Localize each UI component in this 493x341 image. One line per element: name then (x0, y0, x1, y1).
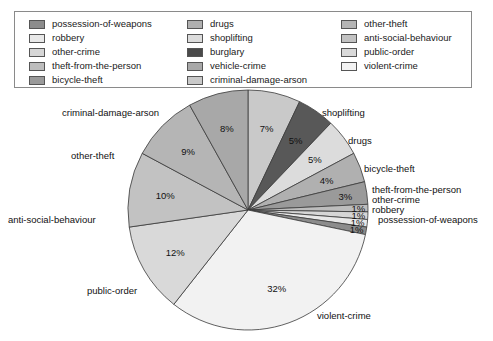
pie-plot-area: 7%5%5%4%3%1%1%1%1%32%12%10%9%8% criminal… (0, 88, 493, 341)
legend-item: robbery (29, 31, 189, 45)
legend-item: anti-social-behaviour (341, 31, 471, 45)
slice-percent-label: 1% (350, 224, 364, 235)
legend-swatch-icon (29, 76, 45, 85)
legend-item-label: public-order (364, 47, 414, 57)
legend-item-label: bicycle-theft (52, 75, 103, 85)
legend-swatch-icon (29, 34, 45, 43)
legend-column-3: other-theft anti-social-behaviour public… (341, 17, 471, 73)
legend-item-label: other-theft (364, 19, 407, 29)
legend-column-2: drugs shoplifting burglary vehicle-crime… (187, 17, 339, 87)
legend-item: criminal-damage-arson (187, 73, 339, 87)
legend-item: other-theft (341, 17, 471, 31)
legend-item: possession-of-weapons (29, 17, 189, 31)
legend-swatch-icon (187, 62, 203, 71)
legend-item: drugs (187, 17, 339, 31)
legend-item-label: drugs (210, 19, 234, 29)
legend-swatch-icon (341, 48, 357, 57)
pie-category-callout: shoplifting (322, 107, 365, 118)
legend-item: bicycle-theft (29, 73, 189, 87)
pie-category-callout: bicycle-theft (364, 163, 415, 174)
legend-item: other-crime (29, 45, 189, 59)
legend-item-label: vehicle-crime (210, 61, 266, 71)
pie-chart-figure: possession-of-weapons robbery other-crim… (0, 0, 493, 341)
legend-item: vehicle-crime (187, 59, 339, 73)
pie-category-callout: violent-crime (317, 310, 371, 321)
legend-item-label: robbery (52, 33, 84, 43)
pie-category-callout: drugs (348, 135, 372, 146)
legend-swatch-icon (187, 34, 203, 43)
chart-legend: possession-of-weapons robbery other-crim… (14, 11, 472, 88)
pie-category-callout: criminal-damage-arson (62, 107, 159, 118)
legend-item: violent-crime (341, 59, 471, 73)
legend-swatch-icon (187, 48, 203, 57)
legend-item-label: anti-social-behaviour (364, 33, 452, 43)
slice-percent-label: 9% (181, 146, 195, 157)
slice-percent-label: 4% (320, 175, 334, 186)
legend-item: theft-from-the-person (29, 59, 189, 73)
legend-swatch-icon (29, 62, 45, 71)
pie-category-callout: other-theft (71, 150, 114, 161)
slice-percent-label: 3% (339, 191, 353, 202)
legend-item-label: possession-of-weapons (52, 19, 152, 29)
legend-swatch-icon (341, 20, 357, 29)
legend-item: public-order (341, 45, 471, 59)
legend-swatch-icon (187, 20, 203, 29)
slice-percent-label: 10% (156, 190, 176, 201)
slice-percent-label: 8% (220, 123, 234, 134)
legend-item-label: shoplifting (210, 33, 253, 43)
slice-percent-label: 7% (260, 123, 274, 134)
pie-category-callout: possession-of-weapons (378, 214, 478, 225)
slice-percent-label: 5% (289, 135, 303, 146)
legend-column-1: possession-of-weapons robbery other-crim… (29, 17, 189, 87)
legend-item: shoplifting (187, 31, 339, 45)
pie-category-callout: public-order (87, 285, 137, 296)
pie-category-callout: anti-social-behaviour (8, 214, 96, 225)
slice-percent-label: 12% (166, 247, 186, 258)
legend-swatch-icon (29, 20, 45, 29)
legend-item-label: burglary (210, 47, 244, 57)
legend-swatch-icon (341, 34, 357, 43)
pie-slices (128, 90, 368, 330)
legend-item-label: criminal-damage-arson (210, 75, 307, 85)
legend-swatch-icon (341, 62, 357, 71)
legend-item-label: theft-from-the-person (52, 61, 141, 71)
legend-item-label: violent-crime (364, 61, 418, 71)
legend-item-label: other-crime (52, 47, 100, 57)
slice-percent-label: 32% (267, 283, 287, 294)
legend-swatch-icon (29, 48, 45, 57)
slice-percent-label: 5% (308, 154, 322, 165)
legend-item: burglary (187, 45, 339, 59)
legend-swatch-icon (187, 76, 203, 85)
